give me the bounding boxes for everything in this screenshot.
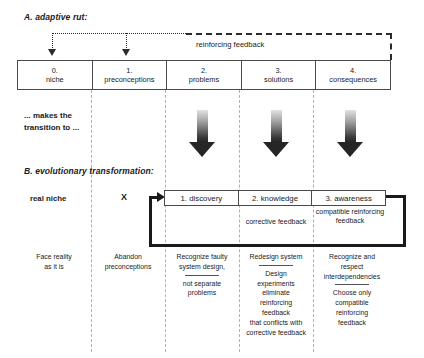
action-bottom: Designexperimentseliminatereinforcingfee… bbox=[239, 269, 313, 338]
loop-bottom-segment bbox=[149, 244, 406, 247]
action-column-niche: Face realityas it is bbox=[17, 252, 91, 272]
evolutionary-phase-row: 1. discovery 2. knowledge 3. awareness bbox=[164, 190, 386, 206]
real-niche-label: real niche bbox=[30, 194, 66, 203]
stage-number: 4. bbox=[350, 66, 356, 75]
compatible-feedback-note: compatible reinforcing feedback bbox=[313, 207, 387, 226]
stage-label: niche bbox=[46, 75, 64, 84]
phase-label: 3. awareness bbox=[325, 194, 371, 203]
x-mark-label: X bbox=[121, 192, 127, 202]
stage-number: 1. bbox=[126, 66, 132, 75]
section-b-title: B. evolutionary transformation: bbox=[24, 166, 154, 176]
feedback-arrowhead-niche bbox=[48, 49, 56, 56]
arrow-head bbox=[189, 142, 215, 157]
action-top: Recognize faultysystem design, bbox=[165, 252, 239, 272]
diagram-canvas: A. adaptive rut: reinforcing feedback 0.… bbox=[0, 0, 424, 358]
action-top: Face realityas it is bbox=[17, 252, 91, 272]
stage-number: 3. bbox=[275, 66, 281, 75]
reinforcing-feedback-label: reinforcing feedback bbox=[196, 40, 264, 49]
action-column-preconceptions: Abandonpreconceptions bbox=[91, 252, 165, 272]
stage-cell-preconceptions[interactable]: 1. preconceptions bbox=[93, 61, 168, 89]
stage-label: preconceptions bbox=[104, 75, 154, 84]
feedback-drop-to-niche bbox=[52, 33, 53, 50]
reinforcing-feedback-dotted-segment bbox=[52, 33, 188, 34]
loop-left-riser bbox=[149, 196, 152, 246]
column-separator-2 bbox=[165, 90, 166, 352]
compatible-feedback-line1: compatible bbox=[316, 208, 350, 215]
loop-right-riser bbox=[403, 195, 406, 247]
arrow-shaft bbox=[345, 110, 356, 142]
action-divider bbox=[335, 284, 369, 285]
feedback-arrowhead-preconceptions bbox=[122, 49, 130, 56]
stage-label: solutions bbox=[264, 75, 293, 84]
stage-cell-consequences[interactable]: 4. consequences bbox=[316, 61, 390, 89]
stage-label: problems bbox=[189, 75, 219, 84]
transition-text-line1: ... makes the bbox=[24, 110, 72, 122]
stage-number: 2. bbox=[201, 66, 207, 75]
corrective-feedback-note: corrective feedback bbox=[239, 217, 313, 226]
action-top: Redesign system bbox=[239, 252, 313, 262]
stage-cell-niche[interactable]: 0. niche bbox=[18, 61, 93, 89]
action-bottom: Choose onlycompatiblereinforcingfeedback bbox=[313, 288, 391, 327]
transition-arrow-consequences bbox=[337, 110, 363, 157]
phase-cell-awareness[interactable]: 3. awareness bbox=[312, 191, 385, 205]
arrow-head bbox=[263, 142, 289, 157]
reinforcing-feedback-dashed-segment bbox=[186, 33, 392, 35]
feedback-drop-to-preconceptions bbox=[126, 33, 127, 50]
arrow-shaft bbox=[271, 110, 282, 142]
arrow-shaft bbox=[197, 110, 208, 142]
phase-cell-discovery[interactable]: 1. discovery bbox=[165, 191, 239, 205]
phase-cell-knowledge[interactable]: 2. knowledge bbox=[239, 191, 313, 205]
action-top: Abandonpreconceptions bbox=[91, 252, 165, 272]
phase-label: 1. discovery bbox=[181, 194, 223, 203]
compatible-feedback-line3: feedback bbox=[336, 217, 364, 224]
transition-arrow-solutions bbox=[263, 110, 289, 157]
arrow-head bbox=[337, 142, 363, 157]
action-bottom: not separateproblems bbox=[165, 279, 239, 299]
action-divider bbox=[185, 275, 219, 276]
column-separator-1 bbox=[91, 90, 92, 352]
action-column-consequences: Recognize andrespectinterdependencies Ch… bbox=[313, 252, 391, 328]
transition-text-line2: transition to ... bbox=[24, 122, 79, 134]
stage-number: 0. bbox=[52, 66, 58, 75]
phase-label: 2. knowledge bbox=[252, 194, 298, 203]
action-top: Recognize andrespectinterdependencies bbox=[313, 252, 391, 281]
compatible-feedback-line2: reinforcing bbox=[352, 208, 385, 215]
stage-cell-solutions[interactable]: 3. solutions bbox=[242, 61, 317, 89]
action-column-problems: Recognize faultysystem design, not separ… bbox=[165, 252, 239, 298]
transition-arrow-problems bbox=[189, 110, 215, 157]
stage-cell-problems[interactable]: 2. problems bbox=[167, 61, 242, 89]
action-divider bbox=[259, 265, 293, 266]
adaptive-rut-stage-row: 0. niche 1. preconceptions 2. problems 3… bbox=[17, 60, 391, 90]
action-column-solutions: Redesign system Designexperimentselimina… bbox=[239, 252, 313, 337]
stage-label: consequences bbox=[329, 75, 377, 84]
section-a-title: A. adaptive rut: bbox=[24, 12, 87, 22]
reinforcing-feedback-right-riser bbox=[390, 33, 392, 60]
